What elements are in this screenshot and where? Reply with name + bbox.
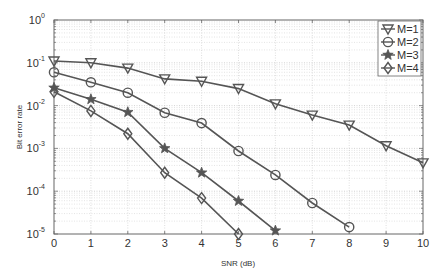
legend-label: M=4	[397, 62, 419, 74]
x-axis-label: SNR (dB)	[221, 259, 256, 268]
legend-item: M=4	[381, 62, 419, 74]
legend-item: M=2	[381, 36, 419, 48]
y-tick-label: 10-2	[27, 98, 46, 112]
y-tick-label: 10-5	[27, 226, 46, 240]
legend: M=1M=2M=3M=4	[378, 21, 421, 76]
y-tick-label: 10-4	[27, 183, 46, 197]
legend-label: M=3	[397, 49, 419, 61]
x-tick-label: 7	[309, 237, 315, 249]
x-tick-label: 9	[383, 237, 389, 249]
x-tick-label: 0	[51, 237, 57, 249]
y-tick-label: 10-1	[27, 55, 46, 69]
series-m-4	[50, 86, 243, 239]
x-tick-label: 8	[346, 237, 352, 249]
series-line	[54, 92, 239, 234]
x-tick-label: 10	[417, 237, 429, 249]
ber-chart: 01234567891010010-110-210-310-410-5 SNR …	[0, 0, 445, 270]
star-marker-icon	[86, 94, 96, 104]
y-tick-label: 100	[29, 12, 45, 26]
legend-label: M=1	[397, 23, 419, 35]
x-tick-label: 3	[162, 237, 168, 249]
y-axis-label: Bit error rate	[15, 104, 24, 149]
x-tick-label: 1	[88, 237, 94, 249]
series-m-2	[49, 68, 353, 232]
x-tick-label: 2	[125, 237, 131, 249]
legend-label: M=2	[397, 36, 419, 48]
y-tick-label: 10-3	[27, 140, 46, 154]
x-tick-label: 4	[199, 237, 205, 249]
x-tick-label: 6	[272, 237, 278, 249]
